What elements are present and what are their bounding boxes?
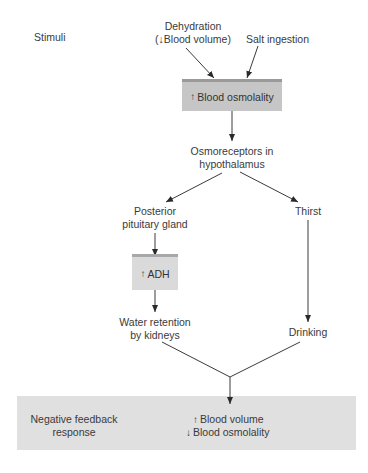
adh-text: ADH	[147, 268, 169, 280]
pituitary-line1: Posterior	[110, 205, 200, 218]
osmoreceptors-line1: Osmoreceptors in	[182, 145, 282, 158]
feedback-line1: Negative feedback	[24, 413, 124, 426]
up-arrow-icon: ↑	[193, 414, 198, 425]
drinking-node: Drinking	[286, 326, 330, 339]
result-blood-osmolality: ↓Blood osmolality	[186, 426, 276, 439]
water-retention-node: Water retention by kidneys	[110, 316, 200, 342]
water-retention-line2: by kidneys	[110, 329, 200, 342]
dehydration-line1: Dehydration	[153, 20, 233, 33]
posterior-pituitary-node: Posterior pituitary gland	[110, 205, 200, 231]
dehydration-stimulus: Dehydration (↓Blood volume)	[153, 20, 233, 46]
stimuli-label: Stimuli	[34, 31, 66, 44]
pituitary-line2: pituitary gland	[110, 218, 200, 231]
salt-ingestion-stimulus: Salt ingestion	[246, 33, 309, 46]
dehydration-line2: (↓Blood volume)	[153, 33, 233, 46]
blood-osmolality-text: Blood osmolality	[197, 91, 273, 103]
result-blood-volume: ↑Blood volume	[186, 413, 276, 426]
up-arrow-icon: ↑	[190, 91, 195, 102]
down-arrow-icon: ↓	[186, 427, 191, 438]
water-retention-line1: Water retention	[110, 316, 200, 329]
blood-osmolality-box: ↑ Blood osmolality	[182, 79, 282, 111]
osmoreceptors-node: Osmoreceptors in hypothalamus	[182, 145, 282, 171]
response-results: ↑Blood volume ↓Blood osmolality	[186, 413, 276, 439]
negative-feedback-label: Negative feedback response	[24, 413, 124, 439]
thirst-node: Thirst	[292, 205, 324, 218]
adh-box: ↑ ADH	[132, 254, 178, 290]
up-arrow-icon: ↑	[140, 268, 145, 279]
osmoreceptors-line2: hypothalamus	[182, 158, 282, 171]
feedback-line2: response	[24, 426, 124, 439]
